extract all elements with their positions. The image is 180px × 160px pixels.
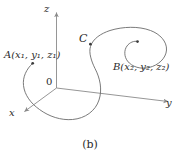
axis-label-z: z: [44, 4, 49, 14]
axis-label-y: y: [166, 98, 172, 108]
point-label-A: A(x₁, y₁, z₁): [4, 50, 60, 60]
space-curve-diagram: [0, 0, 180, 160]
axis-y-line: [57, 88, 169, 102]
figure-caption: (b): [0, 138, 180, 151]
space-curve-path: [23, 27, 166, 119]
point-label-C: C: [79, 33, 87, 44]
point-marker-A: [31, 62, 34, 65]
point-label-B: B(x₂, y₂, z₂): [113, 62, 169, 72]
figure-container: z y x 0 A(x₁, y₁, z₁) B(x₂, y₂, z₂) C (b…: [0, 0, 180, 160]
origin-label: 0: [46, 77, 52, 87]
axis-label-x: x: [9, 108, 15, 118]
point-marker-B: [136, 40, 139, 43]
point-marker-C: [89, 43, 92, 46]
